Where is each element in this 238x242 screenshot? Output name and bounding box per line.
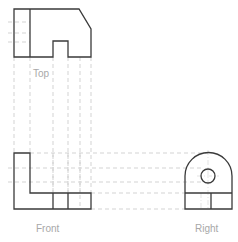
front-view bbox=[14, 153, 91, 209]
top-view-label: Top bbox=[33, 69, 49, 79]
orthographic-drawing bbox=[0, 0, 238, 242]
right-view-centerlines bbox=[197, 150, 219, 209]
right-view bbox=[185, 152, 232, 209]
horizontal-projection-lines bbox=[8, 22, 208, 209]
front-view-label: Front bbox=[36, 224, 59, 234]
vertical-projection-lines bbox=[14, 57, 91, 209]
right-view-label: Right bbox=[195, 224, 218, 234]
